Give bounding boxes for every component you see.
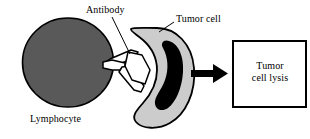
- antibody-leader-line: [112, 17, 130, 54]
- tumor-cell-label: Tumor cell: [176, 13, 221, 24]
- lymphocyte-label: Lymphocyte: [30, 113, 81, 124]
- lymphocyte-cell: [23, 18, 114, 107]
- outcome-box-text-line1: Tumor: [240, 60, 300, 72]
- outcome-box-text: Tumor cell lysis: [240, 60, 300, 84]
- outcome-box-text-line2: cell lysis: [240, 72, 300, 84]
- antibody-label: Antibody: [86, 4, 125, 15]
- process-arrow: [191, 64, 228, 83]
- diagram-canvas: Antibody Tumor cell Lymphocyte Tumor cel…: [0, 0, 310, 139]
